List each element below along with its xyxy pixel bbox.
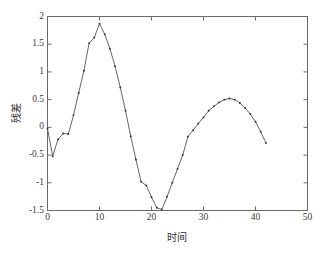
data-point xyxy=(99,23,101,25)
data-point xyxy=(104,33,106,35)
data-point xyxy=(156,207,158,209)
data-point xyxy=(57,139,59,141)
data-point xyxy=(177,168,179,170)
data-point xyxy=(93,37,95,39)
data-point xyxy=(78,92,80,94)
data-point xyxy=(244,107,246,109)
data-point xyxy=(161,208,163,210)
x-tick-label: 30 xyxy=(199,213,209,223)
data-point xyxy=(114,65,116,67)
y-tick-label: 0.5 xyxy=(32,95,44,105)
data-point xyxy=(52,155,54,157)
data-point xyxy=(67,133,69,135)
chart-figure: 01020304050 -1.5-1-0.500.511.52 时间 残差 xyxy=(0,0,327,258)
data-point xyxy=(239,102,241,104)
data-point xyxy=(135,159,137,161)
data-point xyxy=(62,133,64,135)
x-tick-label: 40 xyxy=(251,213,261,223)
data-point xyxy=(125,110,127,112)
data-point xyxy=(88,42,90,44)
data-point xyxy=(73,114,75,116)
data-point xyxy=(145,185,147,187)
x-tick-label: 50 xyxy=(303,213,313,223)
data-point xyxy=(151,196,153,198)
data-point xyxy=(187,136,189,138)
data-point xyxy=(203,116,205,118)
data-point xyxy=(213,105,215,107)
y-tick-label: 1.5 xyxy=(32,39,44,49)
x-tick-label: 20 xyxy=(147,213,157,223)
data-point xyxy=(109,48,111,50)
data-point xyxy=(197,123,199,125)
data-point xyxy=(260,131,262,133)
data-point xyxy=(249,113,251,115)
data-point xyxy=(223,99,225,101)
y-tick-label: -1 xyxy=(36,178,44,188)
data-point xyxy=(234,99,236,101)
y-tick-label: -0.5 xyxy=(29,150,44,160)
data-point xyxy=(119,87,121,89)
x-tick-label: 0 xyxy=(45,213,50,223)
y-axis-title: 残差 xyxy=(8,103,23,123)
data-point xyxy=(83,70,85,72)
x-tick-label: 10 xyxy=(95,213,105,223)
data-point xyxy=(265,142,267,144)
data-point xyxy=(192,129,194,131)
data-point xyxy=(166,196,168,198)
y-tick-label: 2 xyxy=(39,12,44,22)
data-point xyxy=(140,181,142,183)
data-point xyxy=(182,154,184,156)
data-point xyxy=(130,135,132,137)
y-tick-label: -1.5 xyxy=(29,206,44,216)
data-point xyxy=(47,128,49,130)
data-point xyxy=(208,110,210,112)
data-point xyxy=(171,182,173,184)
data-point xyxy=(229,98,231,100)
data-point xyxy=(255,121,257,123)
y-tick-label: 1 xyxy=(39,67,44,77)
data-point xyxy=(218,101,220,103)
x-axis-title: 时间 xyxy=(167,229,187,244)
y-tick-label: 0 xyxy=(39,123,44,133)
plot-frame xyxy=(48,17,308,211)
